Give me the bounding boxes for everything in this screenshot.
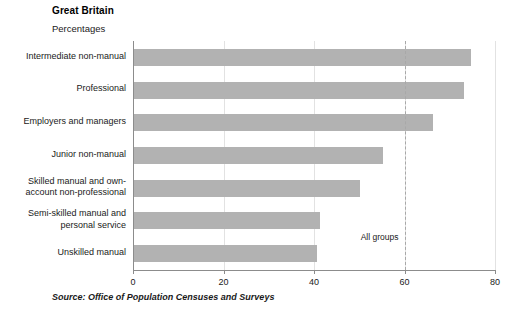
category-label: Employers and managers <box>0 116 126 128</box>
x-tick-label: 0 <box>130 277 135 287</box>
source-note: Source: Office of Population Censuses an… <box>52 292 274 302</box>
x-tick-label: 20 <box>218 277 228 287</box>
bar <box>134 49 471 66</box>
category-label: Unskilled manual <box>0 247 126 259</box>
x-tick-label: 80 <box>490 277 500 287</box>
category-label: Skilled manual and own- account non-prof… <box>0 176 126 199</box>
page-subtitle: Percentages <box>52 23 105 34</box>
x-tick-label: 60 <box>399 277 409 287</box>
bar <box>134 114 433 131</box>
bar <box>134 212 320 229</box>
bar <box>134 245 317 262</box>
x-tick-mark <box>314 270 315 274</box>
chart-page: Great Britain Percentages 020406080 All … <box>0 0 515 325</box>
x-tick-mark <box>224 270 225 274</box>
plot-area: 020406080 All groups <box>133 41 495 270</box>
category-label: Junior non-manual <box>0 149 126 161</box>
bar <box>134 180 360 197</box>
x-tick-mark <box>495 270 496 274</box>
category-label: Semi-skilled manual and personal service <box>0 208 126 231</box>
category-label: Professional <box>0 83 126 95</box>
reference-line-label: All groups <box>361 232 399 242</box>
bar <box>134 82 464 99</box>
page-title: Great Britain <box>52 5 114 16</box>
reference-line <box>405 41 406 270</box>
gridline <box>495 41 496 270</box>
bar <box>134 147 383 164</box>
x-tick-label: 40 <box>309 277 319 287</box>
category-label: Intermediate non-manual <box>0 51 126 63</box>
x-tick-mark <box>133 270 134 274</box>
x-tick-mark <box>405 270 406 274</box>
